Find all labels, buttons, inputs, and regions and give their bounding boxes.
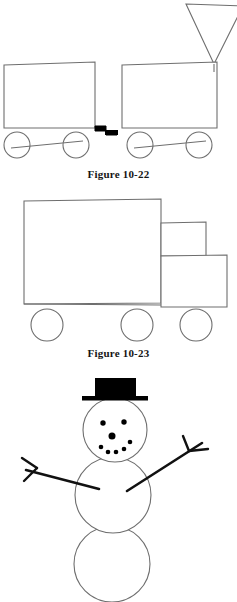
snowman-nose bbox=[109, 433, 116, 440]
figure-10-22-illustration bbox=[0, 0, 237, 168]
truck-wheel bbox=[31, 309, 63, 341]
snowman-smile-dot bbox=[106, 450, 111, 455]
figure-10-23-caption: Figure 10-23 bbox=[0, 347, 237, 359]
snowman-smile-dot bbox=[122, 447, 127, 452]
truck-wheel bbox=[121, 309, 153, 341]
train-wheel bbox=[4, 132, 30, 158]
truck-trailer-body bbox=[24, 199, 161, 304]
snowman-right-eye bbox=[121, 419, 126, 424]
figure-10-23-illustration bbox=[0, 195, 237, 355]
train-coupling-bar bbox=[95, 126, 106, 131]
truck-wheel bbox=[180, 309, 212, 341]
train-axle-rod bbox=[134, 141, 206, 148]
train-wheel bbox=[63, 132, 89, 158]
snowman-illustration bbox=[0, 370, 237, 602]
train-axle-rod bbox=[11, 141, 83, 148]
snowman-torso-circle bbox=[75, 457, 151, 533]
train-coupling-bar-2 bbox=[105, 130, 118, 135]
train-rear-car-body bbox=[4, 62, 95, 128]
snowman-left-eye bbox=[100, 420, 105, 425]
figure-sheet: Figure 10-22 Figure 10-23 bbox=[0, 0, 237, 602]
train-wheel bbox=[186, 132, 212, 158]
snowman-smile-dot bbox=[128, 440, 133, 445]
train-wheel bbox=[127, 132, 153, 158]
snowman-hat-crown bbox=[95, 378, 136, 397]
train-front-car-body bbox=[122, 62, 217, 128]
truck-chassis-line bbox=[24, 304, 161, 305]
snowman-smile-dot bbox=[99, 445, 104, 450]
snowman-smile-dot bbox=[114, 450, 119, 455]
figure-10-22-caption: Figure 10-22 bbox=[0, 168, 237, 180]
train-funnel-icon bbox=[186, 4, 237, 64]
truck-cab-upper-box bbox=[161, 222, 206, 256]
truck-cab-lower-box bbox=[161, 255, 227, 307]
snowman-base-circle bbox=[74, 526, 150, 602]
